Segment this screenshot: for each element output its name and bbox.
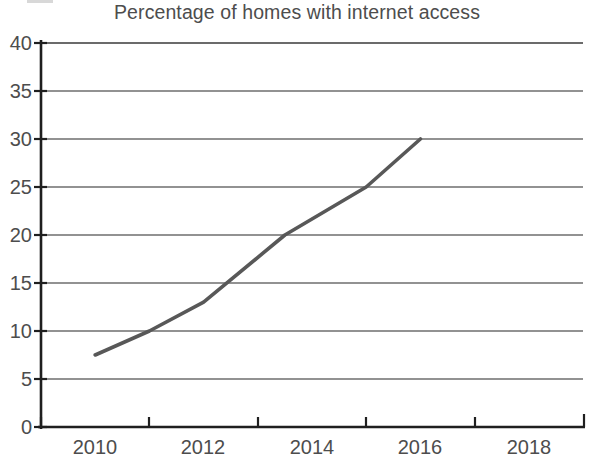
data-line-internet-access bbox=[95, 139, 420, 355]
chart-container: Percentage of homes with internet access… bbox=[0, 0, 594, 467]
x-axis-ticks bbox=[41, 414, 584, 427]
plot-area bbox=[0, 0, 594, 467]
gridlines bbox=[41, 43, 583, 379]
